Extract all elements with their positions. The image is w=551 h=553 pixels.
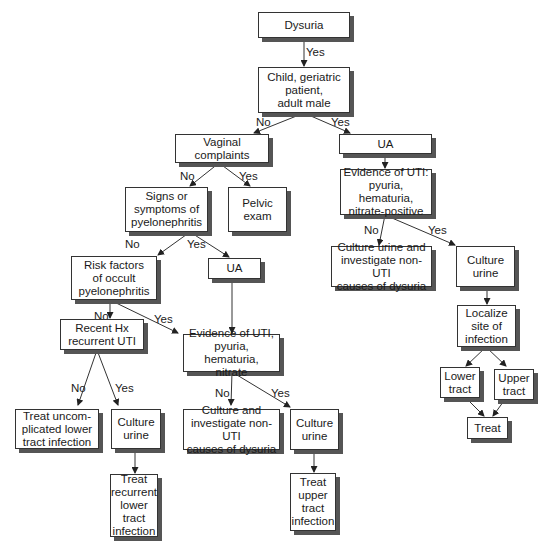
node-culture-urine-right: Culture urine xyxy=(456,246,515,287)
node-signs-symptoms-pyelonephritis: Signs or symptoms of pyelonephritis xyxy=(125,187,208,232)
node-upper-tract: Upper tract xyxy=(494,369,534,400)
node-culture-urine-left: Culture urine xyxy=(111,409,161,449)
edge-label-no: No xyxy=(364,224,379,236)
node-vaginal-complaints: Vaginal complaints xyxy=(175,134,269,163)
edge-label-no: No xyxy=(180,170,195,182)
edge-label-no: No xyxy=(125,238,140,250)
node-culture-urine-mid: Culture urine xyxy=(290,409,339,450)
node-culture-investigate-mid: Culture and investigate non-UTI causes o… xyxy=(183,409,280,450)
edge-label-yes: Yes xyxy=(331,116,350,128)
node-pelvic-exam: Pelvic exam xyxy=(228,187,287,232)
edge-label-yes: Yes xyxy=(187,238,206,250)
edge-label-yes: Yes xyxy=(115,382,134,394)
node-culture-investigate-right: Culture urine and investigate non-UTI ca… xyxy=(331,246,432,287)
node-treat-right: Treat xyxy=(467,417,508,439)
node-ua-right: UA xyxy=(339,134,432,154)
node-localize-site-of-infection: Localize site of infection xyxy=(457,305,516,347)
node-dysuria: Dysuria xyxy=(258,12,350,38)
node-risk-factors-occult-pyelonephritis: Risk factors of occult pyelonephritis xyxy=(71,256,157,300)
edge-label-no: No xyxy=(256,116,271,128)
edge-label-yes: Yes xyxy=(154,313,173,325)
node-lower-tract: Lower tract xyxy=(440,367,480,398)
node-treat-recurrent-lower: Treat recurrent lower tract infection xyxy=(110,474,158,537)
edge-label-no: No xyxy=(215,387,230,399)
edge-label-yes: Yes xyxy=(271,387,290,399)
node-child-geriatric-adult-male: Child, geriatric patient, adult male xyxy=(258,67,350,113)
node-ua-mid: UA xyxy=(208,258,261,279)
node-recent-hx-recurrent-uti: Recent Hx recurrent UTI xyxy=(60,319,144,350)
node-evidence-uti-mid: Evidence of UTI, pyuria, hematuria, nitr… xyxy=(183,334,280,372)
edge-label-yes: Yes xyxy=(306,46,325,58)
node-treat-uncomplicated-lower: Treat uncom- plicated lower tract infect… xyxy=(15,409,99,449)
edge-label-no: No xyxy=(71,382,86,394)
node-evidence-uti-right: Evidence of UTI: pyuria, hematuria, nitr… xyxy=(340,169,432,215)
edge-label-yes: Yes xyxy=(239,170,258,182)
edge-label-yes: Yes xyxy=(428,224,447,236)
node-treat-upper-tract: Treat upper tract infection xyxy=(290,473,336,531)
